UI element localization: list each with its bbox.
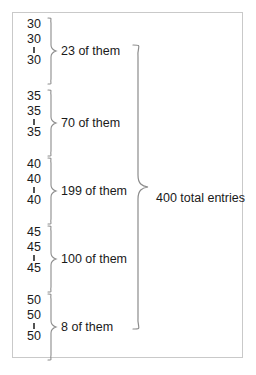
group-list: 30 30 30 23 of them (13, 13, 244, 359)
group-brace-icon (47, 89, 59, 157)
group-count-label: 70 of them (61, 116, 120, 130)
value-cell: 40 (21, 157, 47, 172)
total-count-label: 400 total entries (156, 191, 245, 205)
value-column: 30 30 30 (21, 17, 47, 68)
value-group: 50 50 50 8 of them (13, 293, 244, 361)
group-brace-icon (47, 157, 59, 225)
group-brace-icon (47, 225, 59, 293)
value-cell: 35 (21, 89, 47, 104)
value-group: 45 45 45 100 of them (13, 225, 244, 293)
value-cell: 45 (21, 225, 47, 240)
value-cell: 50 (21, 308, 47, 323)
group-count-label: 23 of them (61, 44, 120, 58)
value-cell: 50 (21, 329, 47, 344)
group-count-label: 100 of them (61, 252, 127, 266)
group-count-label: 199 of them (61, 184, 127, 198)
value-cell: 30 (21, 32, 47, 47)
value-cell: 35 (21, 104, 47, 119)
value-cell: 45 (21, 261, 47, 276)
value-group: 30 30 30 23 of them (13, 17, 244, 85)
value-column: 50 50 50 (21, 293, 47, 344)
total-brace-icon (131, 43, 153, 331)
value-cell: 30 (21, 17, 47, 32)
value-cell: 50 (21, 293, 47, 308)
group-brace-icon (47, 293, 59, 361)
value-cell: 35 (21, 125, 47, 140)
diagram-frame: 30 30 30 23 of them (12, 12, 243, 358)
value-cell: 40 (21, 172, 47, 187)
value-column: 45 45 45 (21, 225, 47, 276)
value-cell: 45 (21, 240, 47, 255)
value-cell: 30 (21, 53, 47, 68)
value-column: 35 35 35 (21, 89, 47, 140)
value-column: 40 40 40 (21, 157, 47, 208)
diagram-canvas: 30 30 30 23 of them (0, 0, 256, 375)
group-count-label: 8 of them (61, 320, 113, 334)
value-cell: 40 (21, 193, 47, 208)
value-group: 35 35 35 70 of them (13, 89, 244, 157)
group-brace-icon (47, 17, 59, 85)
